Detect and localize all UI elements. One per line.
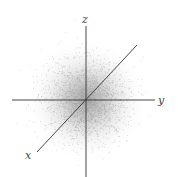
- diagram-canvas: z y x: [0, 0, 178, 177]
- y-axis-label: y: [157, 94, 165, 107]
- x-axis-label: x: [25, 149, 32, 162]
- z-axis-label: z: [81, 13, 88, 26]
- point-cloud: [11, 20, 150, 167]
